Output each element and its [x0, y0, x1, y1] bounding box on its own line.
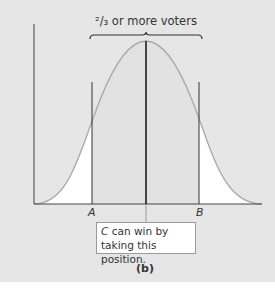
callout-box: C can win by taking this position. [96, 222, 196, 254]
position-b-label: B [196, 206, 204, 219]
position-a-label: A [88, 206, 96, 219]
figure-caption: (b) [136, 262, 154, 275]
two-thirds-brace [90, 32, 202, 39]
two-thirds-voters-label: ²/₃ or more voters [0, 14, 275, 28]
